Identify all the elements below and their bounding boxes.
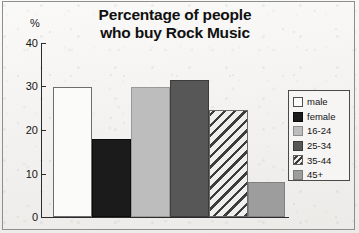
y-tick-label-0: 0 bbox=[8, 212, 38, 223]
chart-title-line-2: who buy Rock Music bbox=[62, 24, 288, 42]
legend-label-25-34: 25-34 bbox=[307, 141, 331, 151]
legend-label-45-plus: 45+ bbox=[307, 170, 323, 180]
chart-title-line-1: Percentage of people bbox=[62, 6, 288, 24]
legend-item-16-24: 16-24 bbox=[293, 124, 349, 138]
bar-45-plus bbox=[248, 182, 285, 217]
y-tick-20 bbox=[41, 130, 46, 131]
x-axis-line bbox=[41, 217, 289, 218]
legend-item-25-34: 25-34 bbox=[293, 139, 349, 153]
y-tick-label-30: 30 bbox=[8, 81, 38, 92]
bar-25-34 bbox=[170, 80, 209, 217]
y-tick-0 bbox=[41, 217, 46, 218]
legend-swatch-16-24-icon bbox=[293, 126, 303, 136]
legend-label-male: male bbox=[307, 97, 328, 107]
bar-male bbox=[53, 87, 92, 218]
y-tick-30 bbox=[41, 86, 46, 87]
chart-page: Percentage of people who buy Rock Music … bbox=[0, 0, 359, 233]
y-axis-label: % bbox=[30, 17, 40, 29]
legend-swatch-male-icon bbox=[293, 97, 303, 107]
legend-swatch-female-icon bbox=[293, 112, 303, 122]
legend-item-45-plus: 45+ bbox=[293, 168, 349, 182]
legend-label-35-44: 35-44 bbox=[307, 156, 331, 166]
y-tick-label-20: 20 bbox=[8, 125, 38, 136]
legend-swatch-25-34-icon bbox=[293, 141, 303, 151]
bar-series bbox=[53, 43, 285, 217]
legend-item-male: male bbox=[293, 95, 349, 109]
y-tick-label-10: 10 bbox=[8, 169, 38, 180]
y-tick-10 bbox=[41, 174, 46, 175]
bar-female bbox=[92, 139, 131, 217]
chart-title: Percentage of people who buy Rock Music bbox=[62, 6, 288, 43]
y-tick-label-40: 40 bbox=[8, 38, 38, 49]
legend-swatch-45-plus-icon bbox=[293, 170, 303, 180]
bar-16-24 bbox=[131, 87, 170, 218]
legend-item-female: female bbox=[293, 110, 349, 124]
legend-swatch-35-44-icon bbox=[293, 155, 303, 165]
legend-item-35-44: 35-44 bbox=[293, 153, 349, 167]
bar-35-44 bbox=[209, 110, 248, 217]
legend-label-female: female bbox=[307, 112, 336, 122]
chart-legend: male female 16-24 25-34 35-44 45+ bbox=[288, 90, 350, 181]
legend-label-16-24: 16-24 bbox=[307, 126, 331, 136]
y-tick-40 bbox=[41, 43, 46, 44]
